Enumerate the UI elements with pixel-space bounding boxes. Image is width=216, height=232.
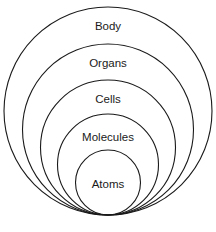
molecules-circle [58, 114, 159, 215]
level-atoms: Atoms [76, 150, 141, 215]
level-molecules: Molecules [58, 114, 159, 215]
atoms-label: Atoms [92, 178, 125, 190]
organs-label: Organs [89, 57, 127, 69]
body-label: Body [95, 20, 121, 32]
cells-label: Cells [95, 93, 121, 105]
nested-circles-diagram: Body Organs Cells Molecules Atoms [0, 0, 216, 232]
molecules-label: Molecules [82, 131, 134, 143]
